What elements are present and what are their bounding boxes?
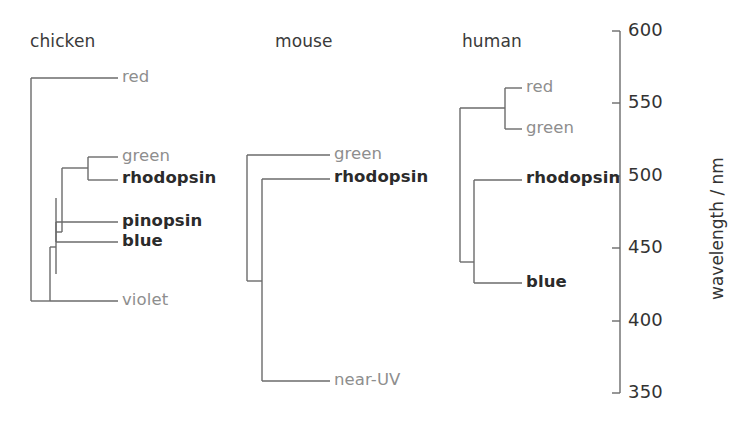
mouse-tip-label-rhodopsin: rhodopsin <box>334 169 428 186</box>
chicken-tip-label-blue: blue <box>122 233 163 250</box>
mouse-tip-label-green: green <box>334 146 382 163</box>
human-tip-label-rhodopsin: rhodopsin <box>526 170 620 187</box>
tree-lines-layer <box>0 0 742 422</box>
species-title-human: human <box>462 31 522 51</box>
human-tip-label-red: red <box>526 79 553 96</box>
axis-title: wavelength / nm <box>707 157 727 300</box>
mouse-tip-label-near-uv: near-UV <box>334 372 400 389</box>
axis-tick-label-450: 450 <box>628 236 663 257</box>
axis-tick-label-350: 350 <box>628 381 663 402</box>
axis-tick-label-600: 600 <box>628 19 663 40</box>
human-tree-branches <box>460 88 522 283</box>
chicken-tip-label-violet: violet <box>122 292 168 309</box>
human-tip-label-blue: blue <box>526 274 567 291</box>
wavelength-axis-line <box>612 31 620 393</box>
chicken-tip-label-red: red <box>122 69 149 86</box>
chicken-tip-label-rhodopsin: rhodopsin <box>122 170 216 187</box>
species-title-chicken: chicken <box>30 31 95 51</box>
chicken-tip-label-pinopsin: pinopsin <box>122 213 202 230</box>
mouse-tree-branches <box>247 155 330 381</box>
axis-tick-label-400: 400 <box>628 309 663 330</box>
opsin-phylogeny-figure: chicken mouse human red green rhodopsin … <box>0 0 742 422</box>
human-tip-label-green: green <box>526 120 574 137</box>
chicken-tree-branches <box>31 78 118 301</box>
axis-tick-label-550: 550 <box>628 91 663 112</box>
axis-tick-label-500: 500 <box>628 164 663 185</box>
chicken-tip-label-green: green <box>122 148 170 165</box>
species-title-mouse: mouse <box>275 31 333 51</box>
